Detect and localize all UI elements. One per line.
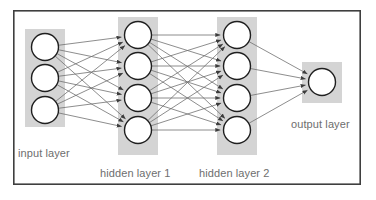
neuron-hidden-1-1 xyxy=(125,22,152,49)
neuron-output-1 xyxy=(309,69,336,96)
neuron-hidden-2-4 xyxy=(224,117,251,144)
layer-label-output: output layer xyxy=(291,118,350,130)
layer-label-hidden-1: hidden layer 1 xyxy=(100,167,171,179)
neuron-hidden-2-2 xyxy=(224,53,251,80)
neuron-input-3 xyxy=(32,97,59,124)
neural-network-canvas: input layerhidden layer 1hidden layer 2o… xyxy=(0,0,376,200)
neuron-hidden-2-1 xyxy=(224,22,251,49)
neuron-hidden-1-4 xyxy=(125,117,152,144)
layer-label-hidden-2: hidden layer 2 xyxy=(199,167,270,179)
neural-network-diagram: input layerhidden layer 1hidden layer 2o… xyxy=(0,0,376,200)
layer-label-input: input layer xyxy=(18,147,70,159)
neuron-input-2 xyxy=(32,65,59,92)
neuron-input-1 xyxy=(32,34,59,61)
neuron-hidden-1-3 xyxy=(125,85,152,112)
neuron-hidden-2-3 xyxy=(224,85,251,112)
neuron-hidden-1-2 xyxy=(125,53,152,80)
